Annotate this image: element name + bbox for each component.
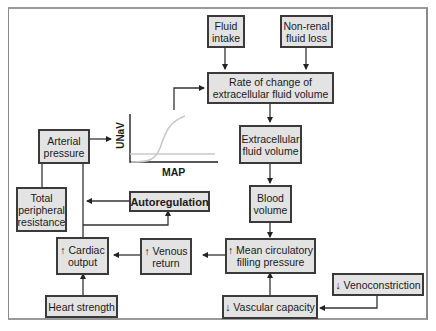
node-fluid-intake: Fluid intake [207,15,245,48]
node-ecf-volume: Extracellular fluid volume [239,125,302,164]
node-total-peripheral-resistance: Total peripheral resistance [16,187,67,232]
node-rate-of-change-ecf: Rate of change of extracellular fluid vo… [207,72,334,104]
node-autoregulation: Autoregulation [129,191,210,212]
inset-chart-curves [130,116,215,162]
node-cardiac-output: ↑ Cardiac output [56,237,109,275]
node-blood-volume: Blood volume [249,185,292,223]
node-heart-strength: Heart strength [45,295,118,318]
node-venous-return: ↑ Venous return [140,238,192,275]
node-venoconstriction: ↓ Venoconstriction [332,273,424,296]
node-non-renal-fluid-loss: Non-renal fluid loss [280,15,333,48]
node-vascular-capacity: ↓ Vascular capacity [222,295,318,319]
inset-chart-xlabel: MAP [162,166,185,178]
node-mean-circulatory-filling-pressure: ↑ Mean circulatory filling pressure [225,238,316,274]
inset-chart-ylabel: UNaV [115,121,126,151]
node-arterial-pressure: Arterial pressure [38,129,90,164]
